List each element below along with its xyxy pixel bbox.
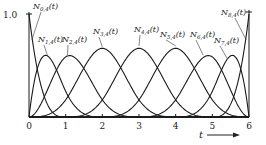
curve-label: N8,4(t)	[220, 8, 246, 18]
curve-6-4	[29, 56, 249, 117]
curve-label: N4,4(t)	[133, 25, 159, 35]
x-tick-label: 2	[99, 121, 105, 131]
x-tick-label: 1	[63, 121, 69, 131]
arrowhead-icon	[233, 133, 240, 138]
curve-label: N1,4(t)	[37, 35, 63, 45]
leader-line	[220, 46, 227, 58]
curve-7-4	[29, 55, 249, 117]
leader-line	[68, 45, 69, 55]
x-axis-label: t	[199, 129, 204, 140]
bspline-basis-chart: 1.0 0123456 N0,4(t)N1,4(t)N2,4(t)N3,4(t)…	[0, 0, 266, 145]
x-tick-label: 6	[246, 121, 252, 131]
leader-line	[166, 40, 176, 46]
curve-label: N6,4(t)	[189, 30, 215, 40]
x-tick-label: 3	[136, 121, 142, 131]
curve-label: N0,4(t)	[32, 2, 58, 12]
leader-line	[139, 35, 140, 46]
x-tick-label: 0	[26, 121, 32, 131]
curve-label: N5,4(t)	[159, 30, 185, 40]
curve-label: N3,4(t)	[92, 27, 118, 37]
curve-label: N7,4(t)	[213, 36, 239, 46]
curve-label: N2,4(t)	[61, 35, 87, 45]
curve-1-4	[29, 55, 249, 117]
curve-labels: N0,4(t)N1,4(t)N2,4(t)N3,4(t)N4,4(t)N5,4(…	[32, 2, 246, 58]
leader-line	[99, 37, 102, 47]
curve-2-4	[29, 56, 249, 117]
leader-line	[196, 40, 203, 55]
leader-line	[44, 45, 47, 55]
y-tick-label: 1.0	[3, 10, 18, 20]
x-tick-label: 4	[173, 121, 179, 131]
x-tick-label: 5	[209, 121, 215, 131]
